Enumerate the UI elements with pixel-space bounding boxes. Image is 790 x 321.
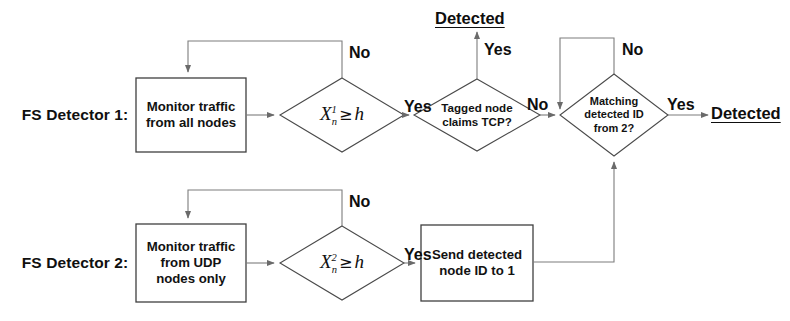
matching-id-line2: detected ID [584,108,643,121]
edge-label-matching-yes: Yes [667,96,695,114]
edge-label-tagged-no: No [527,96,548,114]
node-monitor-udp-line1: Monitor traffic [147,239,236,255]
edge-decision2-no-loop [188,190,342,226]
node-decision-x1[interactable]: X1n≥h [290,100,394,130]
decision2-expression: X2n≥h [320,251,364,275]
edge-label-decision2-yes: Yes [404,246,432,264]
node-monitor-udp-nodes[interactable]: Monitor traffic from UDP nodes only [136,224,246,302]
node-monitor-all-line2: from all nodes [146,115,236,131]
matching-id-line1: Matching [584,95,643,108]
edge-send-id-to-matching [533,162,614,262]
node-decision-matching-id[interactable]: Matching detected ID from 2? [570,92,658,138]
terminal-detected-top: Detected [435,9,505,27]
edge-label-tagged-yes: Yes [484,41,512,59]
edge-label-matching-no: No [622,41,643,59]
edge-label-decision1-yes: Yes [404,98,432,116]
row-label-detector-2: FS Detector 2: [16,252,134,274]
send-id-line1: Send detected [432,247,522,263]
tagged-node-line2: claims TCP? [441,115,512,129]
node-decision-tagged-node[interactable]: Tagged node claims TCP? [424,98,530,132]
decision1-expression: X1n≥h [320,103,364,127]
node-monitor-all-line1: Monitor traffic [146,99,236,115]
node-decision-x2[interactable]: X2n≥h [290,248,394,278]
node-monitor-udp-line3: nodes only [147,271,236,287]
edge-decision1-no-loop [188,41,342,78]
terminal-detected-right: Detected [711,104,781,122]
node-monitor-all-nodes[interactable]: Monitor traffic from all nodes [136,78,246,152]
matching-id-line3: from 2? [584,122,643,135]
node-monitor-udp-line2: from UDP [147,255,236,271]
edge-label-decision2-no: No [349,193,370,211]
node-send-detected-id[interactable]: Send detected node ID to 1 [421,225,533,301]
flowchart-diagram: FS Detector 1: FS Detector 2: Monitor tr… [0,0,790,321]
row-label-detector-1: FS Detector 1: [16,104,134,126]
edge-label-decision1-no: No [349,44,370,62]
tagged-node-line1: Tagged node [441,101,512,115]
send-id-line2: node ID to 1 [432,263,522,279]
